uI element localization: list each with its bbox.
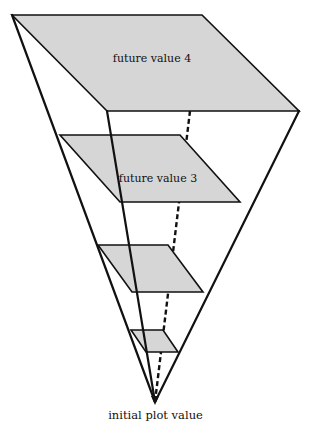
apex-marker (151, 396, 159, 405)
apex-label: initial plot value (0, 408, 311, 422)
plane-1 (131, 330, 178, 352)
plane-2 (98, 245, 203, 292)
plane-3 (60, 135, 240, 202)
projection-cone-diagram: future value 3 future value 4 (0, 0, 311, 437)
plane-4-label: future value 4 (113, 52, 191, 65)
plane-3-label: future value 3 (119, 172, 197, 185)
